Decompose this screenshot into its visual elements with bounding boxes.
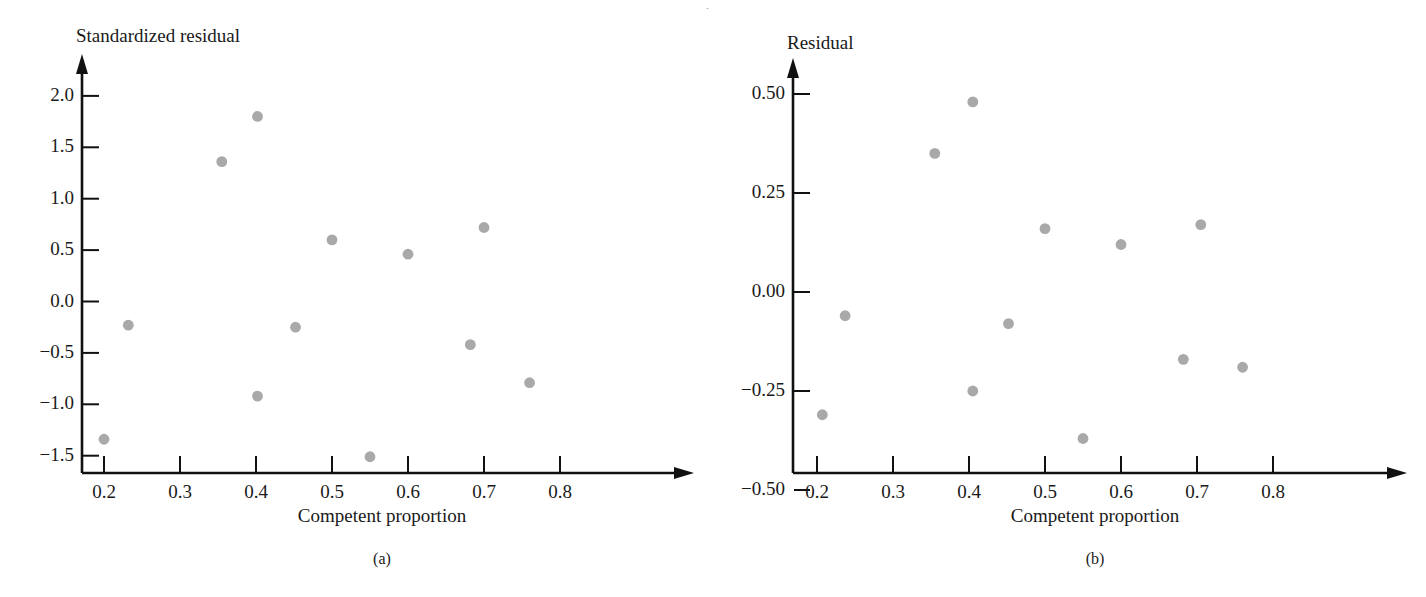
- x-axis-tick-label: 0.2: [777, 481, 857, 503]
- x-axis-tick-label: 0.7: [444, 481, 524, 503]
- data-point: [1040, 223, 1051, 234]
- data-point: [290, 322, 301, 333]
- y-axis-tick-label: −1.5: [6, 444, 74, 466]
- y-axis-tick-label: −1.0: [6, 392, 74, 414]
- data-point: [967, 386, 978, 397]
- data-point: [465, 339, 476, 350]
- data-point: [1078, 433, 1089, 444]
- y-axis-tick-label: 0.25: [717, 181, 785, 203]
- data-point: [840, 310, 851, 321]
- panel-b-residual: Residual Competent proportion (b) 0.500.…: [713, 0, 1426, 597]
- y-axis-tick-label: 0.5: [6, 238, 74, 260]
- y-axis-tick-label: −0.50: [717, 478, 785, 500]
- data-point: [123, 320, 134, 331]
- panel-a-standardized-residual: Standardized residual Competent proporti…: [0, 0, 713, 597]
- data-point: [524, 377, 535, 388]
- y-axis-tick-label: 2.0: [6, 84, 74, 106]
- data-point: [479, 222, 490, 233]
- x-axis-tick-label: 0.2: [64, 481, 144, 503]
- panel-b-x-axis-title: Competent proportion: [895, 505, 1295, 527]
- y-axis-tick-label: 0.00: [717, 280, 785, 302]
- data-point: [1178, 354, 1189, 365]
- data-point: [1195, 219, 1206, 230]
- x-axis-tick-label: 0.3: [140, 481, 220, 503]
- data-point: [216, 156, 227, 167]
- data-point: [1003, 318, 1014, 329]
- x-axis-arrowhead: [674, 467, 694, 479]
- panel-b-caption: (b): [895, 550, 1295, 568]
- y-axis-arrowhead: [787, 58, 799, 78]
- data-point: [252, 391, 263, 402]
- x-axis-tick-label: 0.8: [520, 481, 600, 503]
- data-point: [365, 451, 376, 462]
- y-axis-arrowhead: [76, 54, 88, 74]
- x-axis-tick-label: 0.6: [368, 481, 448, 503]
- panel-a-caption: (a): [182, 550, 582, 568]
- y-axis-tick-label: −0.25: [717, 379, 785, 401]
- x-axis-tick-label: 0.8: [1233, 481, 1313, 503]
- x-axis-tick-label: 0.3: [853, 481, 933, 503]
- y-axis-tick-label: 0.50: [717, 82, 785, 104]
- y-axis-tick-label: 0.0: [6, 290, 74, 312]
- x-axis-tick-label: 0.7: [1157, 481, 1237, 503]
- x-axis-tick-label: 0.5: [1005, 481, 1085, 503]
- data-point: [252, 111, 263, 122]
- residual-plots-figure: . Standardized residual Competent propor…: [0, 0, 1426, 597]
- data-point: [1237, 362, 1248, 373]
- y-axis-tick-label: 1.0: [6, 187, 74, 209]
- x-axis-tick-label: 0.4: [216, 481, 296, 503]
- data-point: [929, 148, 940, 159]
- data-point: [327, 234, 338, 245]
- panel-a-x-axis-title: Competent proportion: [182, 505, 582, 527]
- y-axis-tick-label: −0.5: [6, 341, 74, 363]
- y-axis-tick-label: 1.5: [6, 135, 74, 157]
- data-point: [1116, 239, 1127, 250]
- x-axis-tick-label: 0.6: [1081, 481, 1161, 503]
- data-point: [967, 97, 978, 108]
- data-point: [99, 434, 110, 445]
- x-axis-tick-label: 0.5: [292, 481, 372, 503]
- data-point: [817, 409, 828, 420]
- x-axis-arrowhead: [1387, 467, 1407, 479]
- x-axis-tick-label: 0.4: [929, 481, 1009, 503]
- data-point: [403, 249, 414, 260]
